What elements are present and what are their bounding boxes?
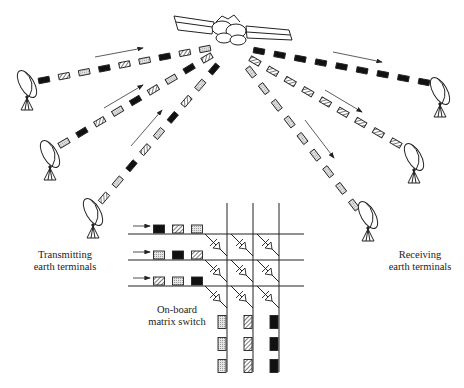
packet-hatched xyxy=(179,49,191,56)
packet-black xyxy=(397,74,409,81)
packet-hatched xyxy=(94,117,106,127)
packet-hatched xyxy=(173,225,184,233)
packet-dotted xyxy=(258,83,269,95)
packet-dotted xyxy=(78,69,90,76)
matrix-switch-label: On-board matrix switch xyxy=(137,304,217,328)
packet-dotted xyxy=(192,225,203,233)
transmit-antenna-icon-1 xyxy=(13,68,40,110)
packet-dotted xyxy=(112,176,123,188)
packet-black xyxy=(377,71,389,78)
direction-arrow-icon xyxy=(333,52,382,62)
packet-hatched xyxy=(244,360,252,373)
packet-hatched xyxy=(58,72,70,79)
crosspoint-switch-icon xyxy=(257,234,279,256)
packet-black xyxy=(192,277,203,285)
crosspoint-switch-icon xyxy=(231,234,253,256)
packet-hatched xyxy=(372,128,384,138)
matrix-switch-label-line2: matrix switch xyxy=(137,316,217,328)
packet-dotted xyxy=(310,149,321,161)
direction-arrow-icon xyxy=(131,110,162,146)
packet-dotted xyxy=(154,251,165,259)
packet-black xyxy=(270,338,278,351)
packet-black xyxy=(270,316,278,329)
receive-antenna-icon-3 xyxy=(354,199,381,241)
packet-black xyxy=(76,127,88,137)
packet-black xyxy=(129,95,141,105)
crosspoint-switch-icon xyxy=(257,286,279,308)
packet-hatched xyxy=(390,138,402,148)
packet-dotted xyxy=(58,138,70,148)
receiving-label-line1: Receiving xyxy=(375,249,464,261)
packet-black xyxy=(38,76,50,83)
satellite-switching-diagram: Transmitting earth terminals Receiving e… xyxy=(0,0,464,388)
packet-dotted xyxy=(297,132,308,144)
packet-hatched xyxy=(181,95,192,107)
packet-dotted xyxy=(348,199,359,211)
packet-dotted xyxy=(165,74,177,84)
crosspoint-switch-icon xyxy=(257,260,279,282)
packet-hatched xyxy=(284,76,296,86)
downlink-beam-1 xyxy=(253,47,430,85)
packet-dotted xyxy=(284,116,295,128)
packet-dotted xyxy=(153,128,164,140)
packet-hatched xyxy=(319,97,331,107)
antennas-layer xyxy=(13,68,453,241)
packet-black xyxy=(356,67,368,74)
crosspoint-switch-icon xyxy=(231,260,253,282)
packet-black xyxy=(183,63,195,73)
packet-black xyxy=(126,160,137,172)
transmitting-label-line2: earth terminals xyxy=(20,261,110,273)
packet-black xyxy=(154,225,165,233)
packet-black xyxy=(315,59,327,66)
packet-black xyxy=(294,55,306,62)
uplink-beam-3 xyxy=(98,63,219,204)
packet-black xyxy=(274,51,286,58)
packet-black xyxy=(336,63,348,70)
packet-hatched xyxy=(154,277,165,285)
packet-hatched xyxy=(98,192,109,204)
packet-black xyxy=(98,65,110,72)
packet-dotted xyxy=(199,45,211,52)
packet-black xyxy=(418,78,430,85)
packet-dotted xyxy=(111,106,123,116)
packet-hatched xyxy=(249,56,261,66)
receiving-label-line2: earth terminals xyxy=(375,261,464,273)
packet-hatched xyxy=(201,53,213,63)
packet-dotted xyxy=(245,66,256,78)
packet-black xyxy=(167,111,178,123)
uplink-beam-1 xyxy=(38,45,211,83)
packet-hatched xyxy=(355,117,367,127)
diagram-canvas xyxy=(0,0,464,388)
packet-dotted xyxy=(336,182,347,194)
packet-black xyxy=(270,360,278,373)
packet-dotted xyxy=(271,99,282,111)
packet-dotted xyxy=(218,360,226,373)
packet-dotted xyxy=(218,338,226,351)
crosspoint-switch-icon xyxy=(205,234,227,256)
packet-dotted xyxy=(218,316,226,329)
packet-black xyxy=(159,53,171,60)
downlink-beam-3 xyxy=(245,66,359,211)
packet-hatched xyxy=(244,338,252,351)
packet-hatched xyxy=(302,87,314,97)
direction-arrow-icon xyxy=(95,48,143,57)
packet-dotted xyxy=(195,79,206,91)
packet-dotted xyxy=(323,166,334,178)
transmitting-label: Transmitting earth terminals xyxy=(20,249,110,273)
packet-dotted xyxy=(173,277,184,285)
receive-antenna-icon-2 xyxy=(400,141,427,183)
receive-antenna-icon-1 xyxy=(426,75,453,117)
satellite-icon xyxy=(174,15,292,45)
transmitting-label-line1: Transmitting xyxy=(20,249,110,261)
matrix-switch xyxy=(128,203,304,373)
packet-hatched xyxy=(337,107,349,117)
crosspoint-switch-icon xyxy=(205,260,227,282)
packet-black xyxy=(253,47,265,54)
crosspoint-switch-icon xyxy=(231,286,253,308)
matrix-switch-label-line1: On-board xyxy=(137,304,217,316)
packet-hatched xyxy=(140,144,151,156)
packet-hatched xyxy=(147,85,159,95)
packet-hatched xyxy=(119,61,131,68)
packet-hatched xyxy=(266,66,278,76)
beams-layer xyxy=(38,45,430,211)
